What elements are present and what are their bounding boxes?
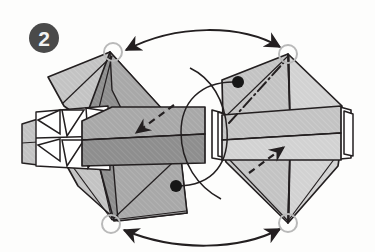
step-number-label: 2 [38,27,50,50]
right-flap-right-inner [344,111,353,156]
figure-canvas: 2 [0,0,375,252]
reference-dot-left-model [170,180,182,192]
step-number-badge: 2 [29,23,59,53]
reference-dot-right-model [232,76,244,88]
origami-step-figure: 2 [0,0,375,252]
